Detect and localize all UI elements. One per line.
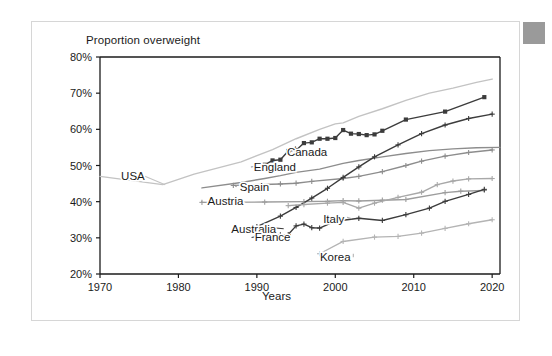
data-point bbox=[482, 95, 486, 99]
series-line bbox=[100, 79, 492, 185]
y-tick-label: 20% bbox=[70, 268, 92, 280]
y-tick-label: 60% bbox=[70, 123, 92, 135]
plot-area: 20%30%40%50%60%70%80%1970198019902000201… bbox=[32, 22, 521, 322]
series-label-text: Italy bbox=[323, 213, 344, 225]
series-label-korea: KoreaKorea bbox=[320, 251, 353, 263]
x-axis-title: Years bbox=[32, 290, 521, 302]
data-point bbox=[341, 128, 345, 132]
series-label-text: Austria bbox=[208, 195, 244, 207]
series-label-text: Korea bbox=[320, 251, 351, 263]
label-leader-line bbox=[347, 217, 352, 218]
y-tick-label: 80% bbox=[70, 51, 92, 63]
line-chart-svg: 20%30%40%50%60%70%80%1970198019902000201… bbox=[32, 22, 521, 322]
gray-corner-square bbox=[523, 22, 545, 44]
data-point bbox=[443, 110, 447, 114]
series-line bbox=[320, 220, 493, 254]
data-point bbox=[318, 137, 322, 141]
series-line bbox=[257, 189, 484, 235]
data-point bbox=[380, 129, 384, 133]
screenshot-root: Proportion overweight 20%30%40%50%60%70%… bbox=[0, 0, 552, 356]
data-point bbox=[302, 141, 306, 145]
y-tick-label: 50% bbox=[70, 160, 92, 172]
data-point bbox=[365, 133, 369, 137]
series-label-text: USA bbox=[121, 170, 145, 182]
y-tick-label: 40% bbox=[70, 196, 92, 208]
chart-card: Proportion overweight 20%30%40%50%60%70%… bbox=[31, 21, 520, 321]
series-usa bbox=[100, 79, 492, 185]
series-label-text: France bbox=[255, 231, 291, 243]
series-label-text: England bbox=[254, 161, 296, 173]
data-point bbox=[333, 136, 337, 140]
axes bbox=[100, 57, 500, 274]
series-label-text: Canada bbox=[287, 146, 328, 158]
data-point bbox=[404, 117, 408, 121]
series-label-canada: CanadaCanada bbox=[286, 146, 328, 158]
series-label-france: FranceFrance bbox=[252, 231, 291, 243]
data-point bbox=[349, 132, 353, 136]
series-label-text: Spain bbox=[240, 181, 269, 193]
series-label-spain: SpainSpain bbox=[235, 181, 269, 193]
data-point bbox=[357, 132, 361, 136]
series-label-england: EnglandEngland bbox=[251, 161, 296, 173]
y-tick-label: 30% bbox=[70, 232, 92, 244]
data-point bbox=[372, 132, 376, 136]
y-tick-label: 70% bbox=[70, 87, 92, 99]
series-label-austria: AustriaAustria bbox=[201, 195, 243, 207]
y-axis-ticks: 20%30%40%50%60%70%80% bbox=[70, 51, 100, 280]
data-point bbox=[325, 137, 329, 141]
data-point bbox=[310, 140, 314, 144]
series-label-italy: ItalyItaly bbox=[323, 213, 352, 225]
